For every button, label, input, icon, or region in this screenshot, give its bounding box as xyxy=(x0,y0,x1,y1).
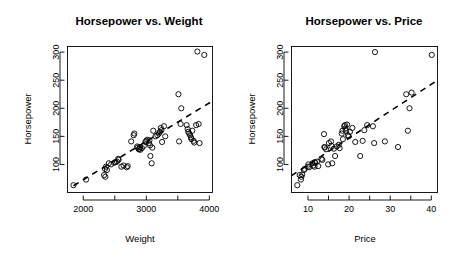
data-point xyxy=(176,92,181,97)
data-point xyxy=(395,144,400,149)
x-tick-label: 2000 xyxy=(73,204,93,214)
data-point xyxy=(197,140,202,145)
data-point xyxy=(202,52,207,57)
plot-title-left: Horsepower vs. Weight xyxy=(76,15,203,27)
y-tick-label: 200 xyxy=(276,101,286,116)
data-point xyxy=(163,134,168,139)
data-point xyxy=(370,124,375,129)
y-axis-label-right: Horsepower xyxy=(246,93,257,144)
data-point xyxy=(360,138,365,143)
data-point xyxy=(179,106,184,111)
data-point xyxy=(372,50,377,55)
data-point xyxy=(321,132,326,137)
data-point xyxy=(372,140,377,145)
data-point xyxy=(340,137,345,142)
y-tick-label: 200 xyxy=(52,101,62,116)
data-point xyxy=(101,172,106,177)
x-tick-label: 10 xyxy=(303,204,313,214)
data-point xyxy=(149,161,154,166)
x-axis-label-right: Price xyxy=(354,233,376,244)
x-tick-label: 3000 xyxy=(136,204,156,214)
y-tick-label: 300 xyxy=(52,45,62,60)
y-axis-ticks-right: 100150200250300 xyxy=(276,45,289,172)
plot-title-right: Horsepower vs. Price xyxy=(306,15,423,27)
panel-horsepower-vs-price: Horsepower vs. Price Horsepower Price 10… xyxy=(226,0,451,255)
x-tick-label: 4000 xyxy=(199,204,219,214)
data-point xyxy=(176,139,181,144)
data-point xyxy=(295,183,300,188)
x-tick-label: 20 xyxy=(344,204,354,214)
x-axis-ticks-right: 10203040 xyxy=(303,196,436,214)
scatter-plot-weight: Horsepower vs. Weight Horsepower Weight … xyxy=(0,0,226,255)
data-points-right xyxy=(295,50,435,188)
y-axis-label-left: Horsepower xyxy=(22,93,33,144)
data-point xyxy=(405,128,410,133)
x-tick-label: 30 xyxy=(385,204,395,214)
x-tick-label: 40 xyxy=(426,204,436,214)
plot-frame-right xyxy=(292,47,438,193)
data-point xyxy=(382,139,387,144)
data-point xyxy=(353,139,358,144)
y-tick-label: 250 xyxy=(276,73,286,88)
y-axis-ticks-left: 100150200250300 xyxy=(52,45,65,172)
data-point xyxy=(362,128,367,133)
y-tick-label: 250 xyxy=(52,73,62,88)
data-point xyxy=(148,153,153,158)
data-point xyxy=(350,125,355,130)
y-tick-label: 150 xyxy=(276,129,286,144)
data-point xyxy=(103,174,108,179)
data-point xyxy=(129,139,134,144)
data-point xyxy=(151,128,156,133)
data-point xyxy=(161,124,166,129)
data-point xyxy=(409,90,414,95)
data-point xyxy=(195,49,200,54)
data-point xyxy=(358,153,363,158)
data-point xyxy=(404,92,409,97)
y-tick-label: 100 xyxy=(52,157,62,172)
data-point xyxy=(407,106,412,111)
data-points-left xyxy=(71,49,207,188)
panel-horsepower-vs-weight: Horsepower vs. Weight Horsepower Weight … xyxy=(0,0,226,255)
data-point xyxy=(429,52,434,57)
plot-frame-left xyxy=(68,47,213,193)
scatter-plot-price: Horsepower vs. Price Horsepower Price 10… xyxy=(226,0,451,255)
x-axis-label-left: Weight xyxy=(125,233,155,244)
y-tick-label: 150 xyxy=(52,129,62,144)
data-point xyxy=(332,153,337,158)
y-tick-label: 100 xyxy=(276,157,286,172)
two-panel-scatter-figure: Horsepower vs. Weight Horsepower Weight … xyxy=(0,0,451,255)
y-tick-label: 300 xyxy=(276,45,286,60)
data-point xyxy=(159,139,164,144)
x-axis-ticks-left: 200030004000 xyxy=(73,196,219,214)
